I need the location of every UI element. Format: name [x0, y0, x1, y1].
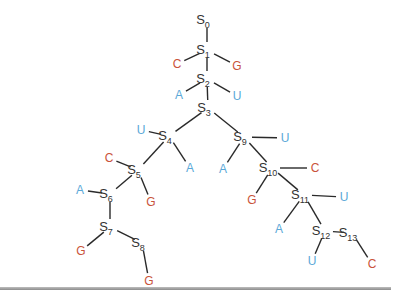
state-node-s1: S1 [196, 42, 210, 60]
base-label-g-11: G [76, 244, 85, 258]
edge-s2-base-3 [214, 83, 230, 92]
base-label-a-2: A [175, 88, 183, 102]
base-label-u-15: U [340, 190, 349, 204]
nodes-layer: S0S1S2S3S4S5S6S7S8S9S10S11S12S13CGAUUAUA… [76, 12, 377, 288]
state-node-s4: S4 [158, 128, 172, 146]
base-label-c-18: C [368, 257, 377, 271]
edge-s4-base-5 [173, 143, 185, 162]
edge-s5-base-9 [141, 177, 148, 194]
edge-s10-base-14 [256, 175, 268, 193]
state-node-s0: S0 [196, 12, 210, 30]
state-node-s10: S10 [259, 160, 278, 178]
state-node-s3: S3 [197, 100, 211, 118]
base-label-u-3: U [233, 89, 242, 103]
edge-s8-base-12 [143, 251, 147, 273]
state-node-s8: S8 [131, 235, 145, 253]
edge-s13-base-18 [356, 240, 367, 258]
state-node-s6: S6 [99, 186, 113, 204]
edge-s4-s5 [143, 142, 163, 164]
base-label-a-7: A [219, 162, 227, 176]
base-label-c-13: C [311, 161, 320, 175]
base-label-g-12: G [144, 274, 153, 288]
edge-s11-base-15 [312, 195, 336, 196]
edge-s1-base-1 [214, 54, 230, 62]
edge-s11-base-16 [284, 201, 300, 222]
base-label-g-14: G [247, 193, 256, 207]
state-node-s11: S11 [291, 187, 309, 205]
edge-s5-s6 [116, 175, 132, 189]
base-label-a-16: A [275, 222, 283, 236]
base-label-u-17: U [308, 254, 317, 268]
state-tree-diagram: S0S1S2S3S4S5S6S7S8S9S10S11S12S13CGAUUAUA… [0, 0, 393, 292]
edge-s7-base-11 [87, 232, 104, 246]
base-label-a-10: A [76, 183, 84, 197]
edge-s11-s12 [308, 202, 321, 224]
base-label-g-1: G [232, 59, 241, 73]
base-label-g-9: G [146, 195, 155, 209]
base-label-c-0: C [173, 57, 182, 71]
state-node-s12: S12 [312, 223, 331, 241]
base-label-u-4: U [137, 123, 146, 137]
bottom-rule-divider [0, 287, 391, 290]
edge-s3-s4 [175, 113, 201, 132]
edge-s9-base-6 [252, 137, 277, 138]
state-node-s13: S13 [339, 225, 358, 243]
base-label-c-8: C [105, 151, 114, 165]
state-node-s2: S2 [196, 71, 210, 89]
edge-s9-base-7 [227, 144, 239, 163]
base-label-u-6: U [281, 131, 290, 145]
base-label-a-5: A [186, 161, 194, 175]
